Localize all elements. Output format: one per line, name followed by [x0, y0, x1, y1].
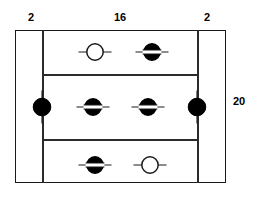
dimension-label-center-span: 16 — [109, 12, 131, 23]
fastener-row1-left-icon[interactable] — [76, 33, 114, 71]
fastener-row1-right-icon[interactable] — [133, 33, 171, 71]
fastener-row3-left-icon[interactable] — [76, 146, 114, 184]
horizontal-divider-lower — [42, 139, 199, 141]
dimension-label-right-margin: 2 — [198, 12, 216, 23]
fastener-edge-left-mid-icon[interactable] — [23, 88, 61, 126]
dimension-label-height: 20 — [233, 96, 257, 107]
horizontal-divider-upper — [42, 74, 199, 76]
fastener-row2-right-icon[interactable] — [129, 88, 167, 126]
diagram-canvas: 2 16 2 20 — [0, 0, 264, 203]
fastener-row2-left-icon[interactable] — [74, 88, 112, 126]
fastener-edge-right-mid-icon[interactable] — [178, 88, 216, 126]
dimension-label-left-margin: 2 — [22, 12, 40, 23]
fastener-row3-right-icon[interactable] — [131, 146, 169, 184]
